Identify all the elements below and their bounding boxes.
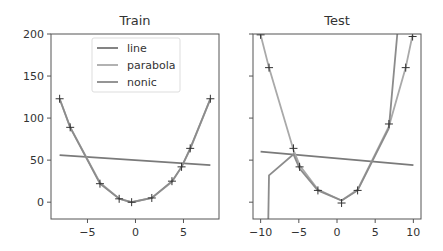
y-tick-label: 0 <box>37 196 44 209</box>
legend: lineparabolanonic <box>92 38 180 92</box>
data-point-marker <box>66 123 74 131</box>
data-point-marker <box>56 95 64 103</box>
test-axes: Test−10−50510 <box>249 13 421 239</box>
x-tick-label: −5 <box>291 226 307 239</box>
x-tick-label: 10 <box>406 226 420 239</box>
x-tick-label: 0 <box>334 226 341 239</box>
axes-frame <box>253 34 421 219</box>
data-point-marker <box>206 95 214 103</box>
data-point-marker <box>289 144 297 152</box>
x-tick-label: −5 <box>79 226 95 239</box>
series-nonic <box>268 34 397 219</box>
chart-title: Test <box>323 13 350 28</box>
data-point-marker <box>385 120 393 128</box>
series-nonic <box>60 99 211 202</box>
y-tick-label: 200 <box>23 28 44 41</box>
data-point-marker <box>402 64 410 72</box>
legend-label-parabola: parabola <box>127 59 176 72</box>
x-tick-label: −10 <box>249 226 272 239</box>
x-tick-label: 5 <box>180 226 187 239</box>
y-tick-label: 50 <box>30 154 44 167</box>
y-tick-label: 100 <box>23 112 44 125</box>
data-point-marker <box>128 198 136 206</box>
x-tick-label: 5 <box>372 226 379 239</box>
data-point-marker <box>186 144 194 152</box>
chart-title: Train <box>118 13 150 28</box>
legend-label-line: line <box>127 42 147 55</box>
data-point-marker <box>257 31 265 39</box>
series-line <box>60 155 211 165</box>
y-tick-label: 150 <box>23 70 44 83</box>
figure: Train−505050100150200 Test−10−50510 line… <box>0 0 443 251</box>
x-tick-label: 0 <box>132 226 139 239</box>
legend-label-nonic: nonic <box>127 76 157 89</box>
data-point-marker <box>265 64 273 72</box>
